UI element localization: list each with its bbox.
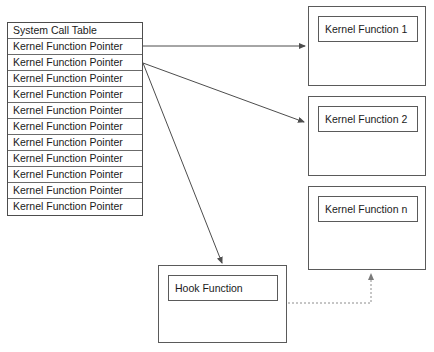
table-row: Kernel Function Pointer	[8, 55, 142, 71]
table-row: Kernel Function Pointer	[8, 183, 142, 199]
hook-function-label: Hook Function	[168, 275, 278, 301]
table-row: Kernel Function Pointer	[8, 199, 142, 215]
kernel-function-n-container: Kernel Function n	[308, 186, 426, 270]
system-call-table-header: System Call Table	[8, 23, 142, 39]
kernel-function-2-container: Kernel Function 2	[308, 96, 426, 176]
table-row: Kernel Function Pointer	[8, 103, 142, 119]
diagram-canvas: System Call Table Kernel Function Pointe…	[0, 0, 434, 352]
arrow-pointer-to-hook-function	[143, 63, 222, 263]
kernel-function-2-label: Kernel Function 2	[318, 106, 418, 132]
arrow-pointer-to-kernel-function-2	[143, 63, 304, 122]
table-row: Kernel Function Pointer	[8, 119, 142, 135]
table-row: Kernel Function Pointer	[8, 135, 142, 151]
kernel-function-1-label: Kernel Function 1	[318, 16, 418, 42]
table-row: Kernel Function Pointer	[8, 167, 142, 183]
arrow-hook-function-to-kernel-function-n	[288, 274, 371, 303]
hook-function-container: Hook Function	[158, 265, 287, 343]
table-row: Kernel Function Pointer	[8, 87, 142, 103]
system-call-table: System Call Table Kernel Function Pointe…	[7, 22, 143, 216]
kernel-function-1-container: Kernel Function 1	[308, 6, 426, 86]
table-row: Kernel Function Pointer	[8, 39, 142, 55]
kernel-function-n-label: Kernel Function n	[318, 196, 418, 222]
table-row: Kernel Function Pointer	[8, 151, 142, 167]
table-row: Kernel Function Pointer	[8, 71, 142, 87]
